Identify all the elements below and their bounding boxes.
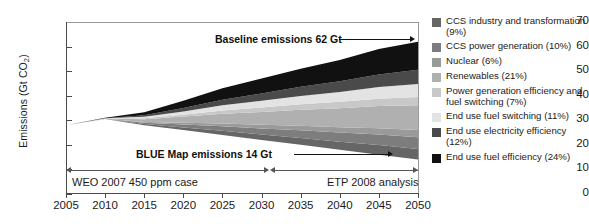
legend-item[interactable]: End use electricity efficiency (12%) (432, 126, 589, 147)
span-etp-left-arrow-icon (270, 167, 275, 173)
legend-swatch-icon (432, 128, 441, 137)
legend-item[interactable]: End use fuel efficiency (24%) (432, 152, 589, 163)
annotation-baseline-leader-line (339, 39, 411, 40)
legend-swatch-icon (432, 58, 441, 67)
plot-area (66, 22, 418, 194)
y-axis-tick-label: 0 (531, 186, 589, 198)
legend-item-label: End use fuel efficiency (24%) (446, 152, 570, 163)
span-weo-right-arrow-icon (264, 167, 269, 173)
legend-swatch-icon (432, 18, 441, 27)
legend-item-label: Renewables (21%) (446, 71, 527, 82)
legend-swatch-icon (432, 73, 441, 82)
legend-item-label: CCS power generation (10%) (446, 41, 571, 52)
legend-swatch-icon (432, 154, 441, 163)
annotation-blue-map-arrow-icon (388, 151, 393, 157)
legend-item[interactable]: Renewables (21%) (432, 71, 589, 82)
x-axis-tick-label: 2050 (393, 199, 443, 211)
chart-legend: CCS industry and transformation (9%)CCS … (432, 16, 589, 167)
chart-root: Emissions (Gt CO2) 706050403020100 20052… (0, 0, 589, 224)
annotation-blue-map-leader-line (294, 154, 390, 155)
span-weo-left-arrow-icon (66, 167, 71, 173)
legend-swatch-icon (432, 88, 441, 97)
plot-border-right (418, 22, 419, 194)
legend-item-label: End use fuel switching (11%) (446, 111, 569, 122)
legend-item-label: Power generation efficiency and fuel swi… (446, 86, 589, 107)
legend-item[interactable]: End use fuel switching (11%) (432, 111, 589, 122)
span-etp-right-arrow-icon (413, 167, 418, 173)
legend-swatch-icon (432, 113, 441, 122)
legend-item[interactable]: Nuclear (6%) (432, 56, 589, 67)
legend-item-label: End use electricity efficiency (12%) (446, 126, 589, 147)
stacked-area-series (66, 22, 418, 194)
annotation-blue-map-emissions: BLUE Map emissions 14 Gt (136, 148, 272, 160)
span-etp-label: ETP 2008 analysis (327, 176, 419, 188)
legend-swatch-icon (432, 43, 441, 52)
legend-item[interactable]: CCS power generation (10%) (432, 41, 589, 52)
y-axis-title: Emissions (Gt CO2) (17, 16, 29, 186)
span-etp-line (272, 170, 418, 171)
y-axis-title-text: Emissions (Gt CO (17, 62, 29, 148)
legend-item-label: Nuclear (6%) (446, 56, 502, 67)
span-weo-label: WEO 2007 450 ppm case (72, 176, 198, 188)
y-axis-title-subscript: 2 (22, 58, 31, 62)
legend-item[interactable]: Power generation efficiency and fuel swi… (432, 86, 589, 107)
annotation-baseline-arrow-icon (410, 36, 415, 42)
span-weo-line (70, 170, 268, 171)
annotation-baseline-emissions: Baseline emissions 62 Gt (215, 33, 342, 45)
legend-item[interactable]: CCS industry and transformation (9%) (432, 16, 589, 37)
legend-item-label: CCS industry and transformation (9%) (446, 16, 589, 37)
